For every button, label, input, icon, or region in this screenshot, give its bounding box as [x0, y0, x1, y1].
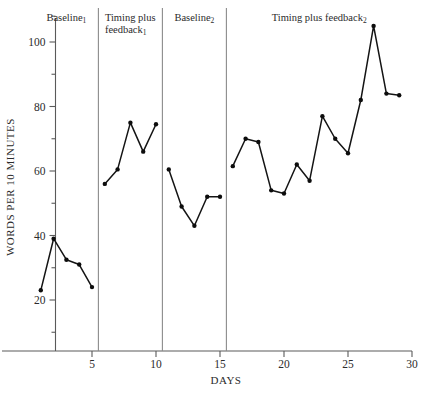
series-line-3: [233, 26, 399, 194]
data-point: [218, 195, 222, 199]
data-point: [333, 137, 337, 141]
data-point: [269, 188, 273, 192]
x-tick-label-10: 10: [150, 358, 162, 370]
chart-container: 20406080100 51015202530 DAYS WORDS PER 1…: [0, 0, 427, 399]
data-point: [359, 98, 363, 102]
data-point: [51, 237, 55, 241]
phase-label-timing-plus-feedback-2: Timing plus feedback2: [272, 12, 367, 25]
phase-divider-lines: [98, 8, 226, 351]
x-tick-label-15: 15: [214, 358, 226, 370]
data-point: [205, 195, 209, 199]
x-tick-labels: 51015202530: [89, 358, 418, 370]
data-point: [39, 288, 43, 292]
phase-label-timing-plus-feedback-1: Timing plusfeedback1: [105, 12, 156, 37]
data-point: [295, 162, 299, 166]
data-point: [231, 164, 235, 168]
data-point: [141, 149, 145, 153]
data-point: [282, 191, 286, 195]
data-point: [397, 93, 401, 97]
line-chart-svg: 20406080100 51015202530 DAYS WORDS PER 1…: [0, 0, 427, 399]
y-tick-marks: [50, 16, 56, 332]
data-point: [77, 262, 81, 266]
data-point: [384, 91, 388, 95]
data-series-group: [39, 24, 402, 293]
data-point: [154, 122, 158, 126]
y-tick-labels: 20406080100: [28, 36, 46, 306]
y-tick-label-60: 60: [34, 165, 46, 177]
data-point: [90, 285, 94, 289]
x-tick-label-20: 20: [278, 358, 290, 370]
data-point: [128, 120, 132, 124]
x-axis-group: 51015202530: [2, 351, 418, 370]
data-point: [115, 167, 119, 171]
data-point: [243, 137, 247, 141]
data-point: [320, 114, 324, 118]
phase-label-baseline-1: Baseline1: [46, 12, 86, 25]
x-tick-marks: [92, 351, 412, 357]
y-tick-label-40: 40: [34, 230, 46, 242]
y-axis-title: WORDS PER 10 MINUTES: [4, 118, 16, 256]
y-tick-label-100: 100: [28, 36, 46, 48]
x-tick-label-5: 5: [89, 358, 95, 370]
series-line-2: [169, 169, 220, 225]
data-point: [167, 167, 171, 171]
x-axis-title: DAYS: [211, 374, 242, 386]
series-line-1: [105, 123, 156, 184]
data-point: [371, 24, 375, 28]
data-point: [346, 151, 350, 155]
data-point: [256, 140, 260, 144]
data-point: [192, 224, 196, 228]
data-point: [307, 178, 311, 182]
phase-label-baseline-2: Baseline2: [174, 12, 214, 25]
y-tick-label-80: 80: [34, 101, 46, 113]
y-axis-group: 20406080100: [28, 16, 55, 351]
y-tick-label-20: 20: [34, 294, 46, 306]
data-point: [103, 182, 107, 186]
series-line-0: [41, 239, 92, 291]
x-tick-label-30: 30: [406, 358, 418, 370]
data-point: [179, 204, 183, 208]
x-tick-label-25: 25: [342, 358, 354, 370]
data-point: [64, 257, 68, 261]
